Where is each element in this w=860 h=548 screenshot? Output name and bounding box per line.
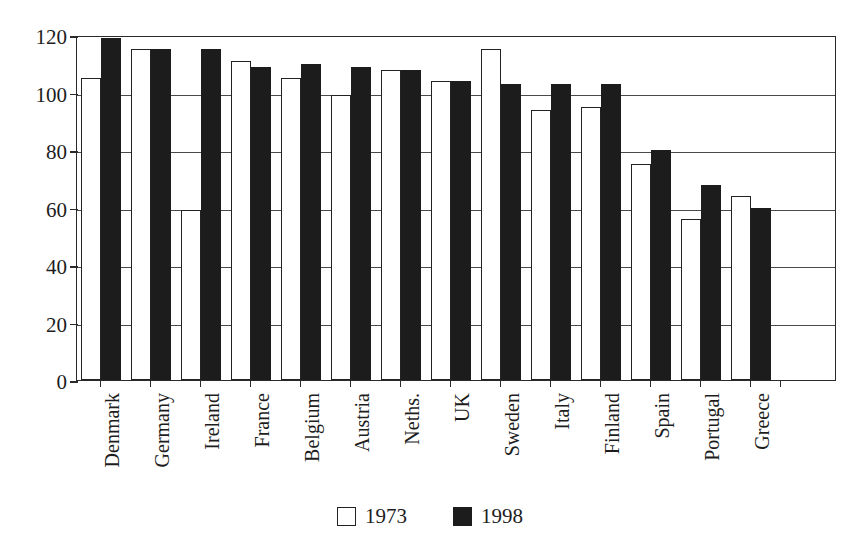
bar-spain-1998: [651, 150, 671, 380]
bar-greece-1998: [751, 208, 771, 381]
x-tick-label-germany: Germany: [152, 393, 172, 467]
bar-spain-1973: [631, 164, 651, 380]
y-tick-mark: [70, 209, 78, 211]
bar-france-1973: [231, 61, 251, 380]
bar-finland-1998: [601, 84, 621, 380]
y-tick-label: 20: [46, 314, 67, 335]
legend-item-1973: 1973: [337, 506, 407, 527]
y-tick-label: 80: [46, 142, 67, 163]
bar-denmark-1998: [101, 38, 121, 380]
x-tick-label-belgium: Belgium: [302, 393, 322, 462]
legend-label: 1998: [481, 506, 523, 527]
bar-ireland-1998: [201, 49, 221, 380]
y-tick-mark: [70, 324, 78, 326]
x-tick-label-greece: Greece: [752, 393, 772, 450]
x-tick-label-ireland: Ireland: [202, 393, 222, 450]
y-tick-label: 100: [36, 84, 68, 105]
bar-uk-1973: [431, 81, 451, 380]
plot-area: 020406080100120: [76, 36, 836, 381]
bar-greece-1973: [731, 196, 751, 380]
bar-italy-1973: [531, 110, 551, 380]
x-tick-mark: [780, 381, 781, 387]
bar-portugal-1998: [701, 185, 721, 381]
bar-belgium-1973: [281, 78, 301, 380]
y-tick-mark: [70, 94, 78, 96]
bar-france-1998: [251, 67, 271, 380]
bar-germany-1998: [151, 49, 171, 380]
y-tick-label: 120: [36, 27, 68, 48]
x-tick-mark: [750, 381, 751, 387]
bar-neths-1973: [381, 70, 401, 381]
x-tick-label-italy: Italy: [552, 393, 572, 430]
x-tick-mark: [200, 381, 201, 387]
bar-chart-figure: 020406080100120 DenmarkGermanyIrelandFra…: [0, 0, 860, 548]
bar-ireland-1973: [181, 210, 201, 380]
y-tick-mark: [70, 266, 78, 268]
x-tick-mark: [700, 381, 701, 387]
bar-austria-1973: [331, 95, 351, 380]
bar-austria-1998: [351, 67, 371, 380]
x-tick-mark: [350, 381, 351, 387]
y-tick-mark: [70, 151, 78, 153]
x-tick-mark: [400, 381, 401, 387]
bar-belgium-1998: [301, 64, 321, 380]
x-tick-label-neths: Neths.: [402, 393, 422, 445]
y-tick-label: 40: [46, 257, 67, 278]
bar-italy-1998: [551, 84, 571, 380]
hollow-square-swatch: [337, 507, 356, 526]
y-tick-mark: [70, 36, 78, 38]
x-tick-label-france: France: [252, 393, 272, 447]
y-tick-label: 0: [57, 372, 68, 393]
legend-item-1998: 1998: [453, 506, 523, 527]
bar-finland-1973: [581, 107, 601, 380]
bar-denmark-1973: [81, 78, 101, 380]
x-tick-mark: [600, 381, 601, 387]
x-tick-label-uk: UK: [452, 393, 472, 422]
x-axis: DenmarkGermanyIrelandFranceBelgiumAustri…: [76, 381, 836, 501]
bar-neths-1998: [401, 70, 421, 381]
x-tick-label-finland: Finland: [602, 393, 622, 454]
x-tick-mark: [300, 381, 301, 387]
x-tick-label-spain: Spain: [652, 393, 672, 439]
x-tick-label-austria: Austria: [352, 393, 372, 452]
bar-portugal-1973: [681, 219, 701, 380]
x-tick-mark: [450, 381, 451, 387]
x-tick-mark: [500, 381, 501, 387]
x-tick-mark: [250, 381, 251, 387]
x-tick-mark: [550, 381, 551, 387]
bar-uk-1998: [451, 81, 471, 380]
x-tick-mark: [150, 381, 151, 387]
x-tick-mark: [100, 381, 101, 387]
chart-legend: 19731998: [0, 506, 860, 527]
y-tick-label: 60: [46, 199, 67, 220]
bar-sweden-1998: [501, 84, 521, 380]
x-tick-label-sweden: Sweden: [502, 393, 522, 456]
bar-sweden-1973: [481, 49, 501, 380]
x-tick-mark: [650, 381, 651, 387]
x-tick-label-portugal: Portugal: [702, 393, 722, 461]
filled-square-swatch: [453, 507, 472, 526]
bar-germany-1973: [131, 49, 151, 380]
legend-label: 1973: [365, 506, 407, 527]
x-tick-label-denmark: Denmark: [102, 393, 122, 467]
